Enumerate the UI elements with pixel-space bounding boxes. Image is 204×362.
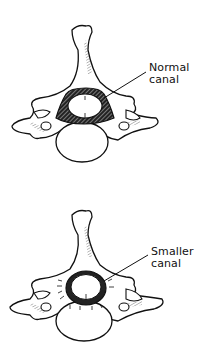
leader-line [104,72,146,98]
normal-canal-label: Normal canal [149,62,189,86]
normal-vertebra-drawing [0,0,204,181]
smaller-vertebra-drawing [0,181,204,362]
normal-vertebra-panel: Normal canal [0,0,204,181]
smaller-canal-label: Smaller canal [151,246,194,270]
label-line-2: canal [149,74,189,86]
label-line-2: canal [151,258,194,270]
smaller-vertebra-panel: Smaller canal [0,181,204,362]
